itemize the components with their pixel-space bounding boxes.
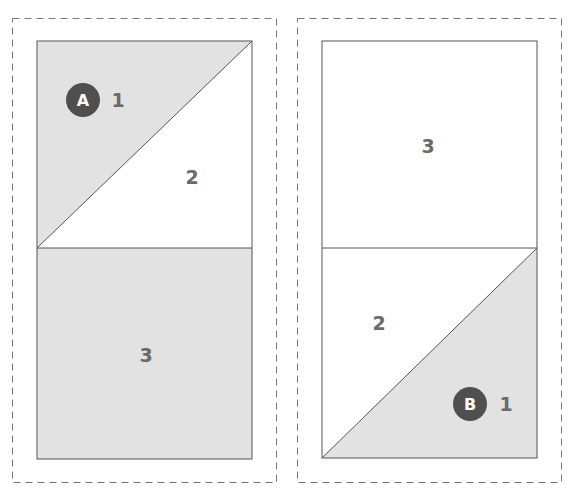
panel-a-badge-label: A xyxy=(77,91,90,110)
panel-b-badge-label: B xyxy=(464,395,476,414)
panel-a: A 1 2 3 xyxy=(13,19,277,483)
panel-a-piece-1-number: 1 xyxy=(111,89,124,111)
panel-a-piece-3-number: 3 xyxy=(139,344,152,366)
panel-b-piece-1-number: 1 xyxy=(499,393,512,415)
panel-b-piece-2-number: 2 xyxy=(372,312,385,334)
panel-a-piece-2-number: 2 xyxy=(185,166,198,188)
quilt-block-diagram: A 1 2 3 B 3 2 1 xyxy=(0,0,574,496)
panel-b: B 3 2 1 xyxy=(298,19,562,483)
panel-b-piece-3-number: 3 xyxy=(421,135,434,157)
